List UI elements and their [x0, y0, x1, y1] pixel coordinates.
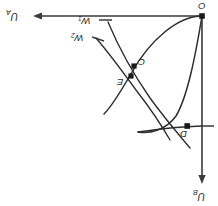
point-marker-o: [199, 13, 205, 19]
point-label-d: D: [180, 129, 187, 139]
axis-label-ub-base: U: [198, 191, 205, 202]
point-marker-c: [131, 63, 136, 68]
curve-w2: [96, 38, 170, 140]
frontier-curve-outer: [138, 16, 202, 132]
curve-label-w2: W2: [71, 31, 84, 43]
curve-label-w1-subscript: 1: [78, 15, 82, 22]
frontier-curve-to-d: [138, 126, 202, 132]
figure-container: UA UB W1 W2 O C E D: [0, 0, 218, 206]
frontier-curve-upper: [104, 16, 202, 114]
axis-label-ub-subscript: B: [193, 189, 198, 196]
curve-label-w2-subscript: 2: [71, 32, 75, 39]
down-arrow-icon: [198, 175, 205, 184]
axis-label-ua-base: U: [11, 11, 18, 22]
diagram-canvas: [0, 0, 218, 206]
point-label-e: E: [117, 77, 123, 87]
curve-label-w2-base: W: [75, 33, 84, 44]
axis-label-ua-subscript: A: [6, 9, 11, 16]
curve-label-w1: W1: [78, 14, 91, 26]
point-label-c: C: [138, 57, 145, 67]
axis-label-ua: UA: [6, 9, 18, 21]
point-marker-e: [128, 73, 133, 78]
axis-label-ub: UB: [193, 189, 205, 201]
curve-label-w1-base: W: [82, 16, 91, 27]
point-label-o: O: [198, 1, 205, 11]
left-arrow-icon: [33, 12, 42, 19]
